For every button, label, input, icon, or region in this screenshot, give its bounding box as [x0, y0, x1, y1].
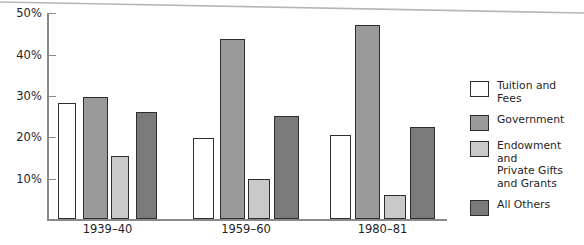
- y-axis-line: [47, 13, 49, 220]
- y-tick-10: [47, 179, 56, 180]
- bar-1959-60-government: [220, 39, 245, 219]
- y-tick-label-40: 40%: [0, 50, 42, 62]
- bar-1959-60-endowment: [248, 179, 270, 219]
- x-group-label-1939-40: 1939–40: [58, 224, 157, 236]
- chart-legend: Tuition and Fees Government Endowment an…: [470, 80, 584, 225]
- bar-1980-81-tuition-and-fees: [330, 135, 351, 219]
- legend-swatch-endowment: [470, 141, 489, 157]
- legend-swatch-all-others: [470, 200, 489, 216]
- y-tick-50: [47, 13, 56, 14]
- bar-1939-40-tuition-and-fees: [58, 103, 76, 219]
- y-tick-label-20: 20%: [0, 132, 42, 144]
- y-tick-30: [47, 96, 56, 97]
- legend-label-government: Government: [497, 114, 564, 127]
- legend-swatch-tuition-and-fees: [470, 81, 489, 97]
- legend-item-government: Government: [470, 114, 584, 131]
- bar-1959-60-all-others: [274, 116, 299, 219]
- legend-item-tuition-and-fees: Tuition and Fees: [470, 80, 584, 105]
- x-group-label-1980-81: 1980–81: [330, 224, 435, 236]
- legend-swatch-government: [470, 115, 489, 131]
- bar-1939-40-all-others: [136, 112, 157, 219]
- x-axis-line: [47, 219, 447, 221]
- bar-1980-81-endowment: [384, 195, 406, 219]
- bar-1980-81-government: [355, 25, 380, 219]
- legend-label-tuition-and-fees: Tuition and Fees: [497, 80, 584, 105]
- bar-1980-81-all-others: [410, 127, 435, 220]
- y-tick-label-50: 50%: [0, 8, 42, 20]
- bar-1959-60-tuition-and-fees: [193, 138, 214, 219]
- bar-1939-40-government: [83, 97, 108, 219]
- legend-label-endowment: Endowment and Private Gifts and Grants: [497, 140, 584, 190]
- y-tick-label-10: 10%: [0, 174, 42, 186]
- y-tick-40: [47, 55, 56, 56]
- legend-item-all-others: All Others: [470, 199, 584, 216]
- legend-label-all-others: All Others: [497, 199, 550, 212]
- y-tick-20: [47, 137, 56, 138]
- legend-item-endowment: Endowment and Private Gifts and Grants: [470, 140, 584, 190]
- x-group-label-1959-60: 1959–60: [193, 224, 299, 236]
- y-tick-label-30: 30%: [0, 91, 42, 103]
- bar-1939-40-endowment: [111, 156, 129, 219]
